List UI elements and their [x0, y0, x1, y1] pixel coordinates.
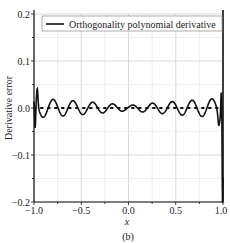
y-tick-label: 0.2 [18, 9, 31, 20]
x-tick-label: −0.5 [72, 205, 90, 216]
x-axis-label: x [124, 216, 130, 227]
x-tick-label: 1.0 [215, 205, 228, 216]
y-tick-label: 0.1 [18, 56, 31, 67]
x-tick-label: 0.5 [170, 205, 183, 216]
chart-svg: −1.0−0.50.00.51.0 0.20.10.0−0.1−0.2 Orth… [0, 0, 230, 243]
legend: Orthogonality polynomial derivative [42, 16, 222, 31]
y-tick-label: −0.1 [12, 150, 30, 161]
y-tick-labels: 0.20.10.0−0.1−0.2 [12, 9, 30, 208]
y-tick-label: −0.2 [12, 197, 30, 208]
y-axis-label: Derivative error [3, 75, 14, 140]
x-tick-label: 0.0 [122, 205, 135, 216]
y-tick-label: 0.0 [18, 103, 31, 114]
figure-caption: (b) [122, 231, 134, 243]
legend-label: Orthogonality polynomial derivative [69, 19, 216, 30]
x-tick-labels: −1.0−0.50.00.51.0 [25, 205, 227, 216]
